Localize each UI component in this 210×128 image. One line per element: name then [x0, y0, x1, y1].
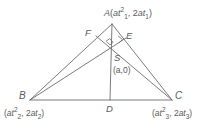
- vertex-coord-B: (at22, 2at2): [4, 107, 44, 120]
- side-CA: [112, 24, 172, 100]
- side-AB: [30, 24, 112, 100]
- vertex-C-coord-close: ): [189, 108, 192, 118]
- altitude-BE: [30, 38, 126, 100]
- vertex-B-coord-y-base: at: [31, 108, 38, 118]
- vertex-A-coord-close: ): [149, 8, 152, 18]
- point-label-D: D: [106, 104, 113, 114]
- vertex-coord-C: (at23, 2at3): [152, 107, 192, 120]
- vertex-label-B: B: [19, 91, 26, 101]
- vertex-A-coord-sep: , 2: [128, 8, 138, 18]
- point-coord-S: (a,0): [113, 66, 130, 75]
- vertex-label-A: A(at21, 2at1): [104, 7, 152, 20]
- vertex-A-coord-x-base: at: [113, 8, 121, 18]
- vertex-label-C: C: [175, 91, 182, 101]
- point-label-E: E: [126, 31, 132, 41]
- vertex-B-coord-sep: , 2: [21, 108, 30, 118]
- point-label-S: S: [114, 53, 120, 63]
- vertex-B-coord-x-base: at: [7, 108, 14, 118]
- vertex-C-coord-x-base: at: [155, 108, 162, 118]
- vertex-B-coord-close: ): [41, 108, 44, 118]
- altitude-CF: [96, 36, 172, 100]
- vertex-C-coord-y-base: at: [179, 108, 186, 118]
- vertex-C-coord-sep: , 2: [169, 108, 178, 118]
- geometry-figure: A(at21, 2at1) F E S (a,0) B (at22, 2at2)…: [0, 0, 210, 128]
- point-label-F: F: [85, 28, 91, 38]
- altitude-AD: [110, 24, 112, 100]
- orthocenter-mark-icon: [106, 42, 113, 45]
